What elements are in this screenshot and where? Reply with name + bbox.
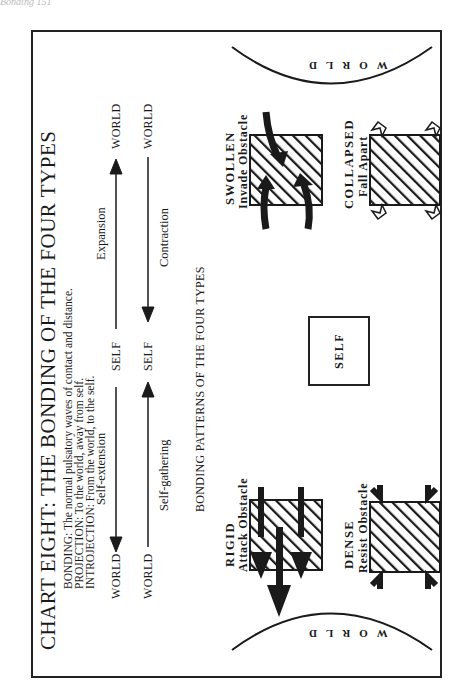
world-label-left: WORLD — [300, 628, 388, 640]
flow-arrow-contraction — [142, 157, 154, 322]
swollen-obstacle — [250, 135, 322, 205]
collapsed-obstacle — [370, 135, 440, 205]
type-collapsed-name: COLLAPSED — [342, 119, 357, 209]
diagram-graphics — [0, 0, 465, 697]
chart-page: CHART EIGHT: THE BONDING OF THE FOUR TYP… — [0, 0, 465, 697]
type-swollen-behavior: Invade Obstacle — [236, 114, 251, 209]
self-box: SELF — [308, 316, 370, 386]
type-rigid-behavior: Attack Obstacle — [236, 478, 251, 572]
type-dense-behavior: Resist Obstacle — [356, 483, 371, 573]
flow-arrow-expansion — [110, 159, 122, 329]
flow-arrow-self-gathering — [142, 382, 154, 547]
dense-obstacle — [370, 502, 440, 572]
type-collapsed-behavior: Fall Apart — [356, 136, 371, 197]
flow-arrow-self-extension — [110, 387, 122, 552]
world-label-right: WORLD — [300, 60, 388, 72]
type-dense-name: DENSE — [342, 520, 357, 569]
